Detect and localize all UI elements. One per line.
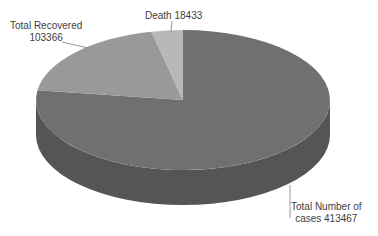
label-death: Death 18433 bbox=[145, 10, 202, 22]
label-total-cases: Total Number of cases 413467 bbox=[291, 201, 362, 225]
pie-top bbox=[36, 30, 330, 170]
label-total-recovered: Total Recovered 103366 bbox=[10, 20, 82, 44]
